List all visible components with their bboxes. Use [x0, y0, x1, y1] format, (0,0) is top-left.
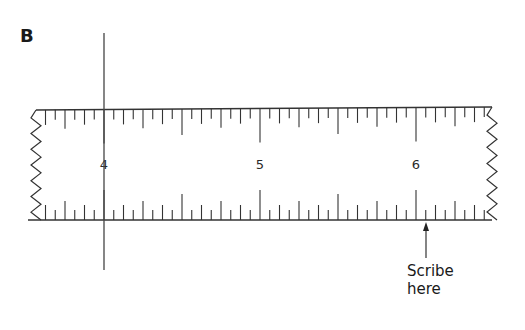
scribe-here-callout: Scribe here	[407, 262, 454, 298]
arrow-up-icon	[423, 222, 429, 258]
ruler-numbers: 456	[100, 157, 420, 172]
ruler-ticks-top	[46, 107, 485, 144]
ruler-ticks-bottom	[46, 190, 485, 220]
ruler-number-5: 5	[256, 157, 264, 172]
ruler-number-6: 6	[412, 157, 420, 172]
callout-line-1: Scribe	[407, 262, 454, 280]
callout-line-2: here	[407, 280, 454, 298]
